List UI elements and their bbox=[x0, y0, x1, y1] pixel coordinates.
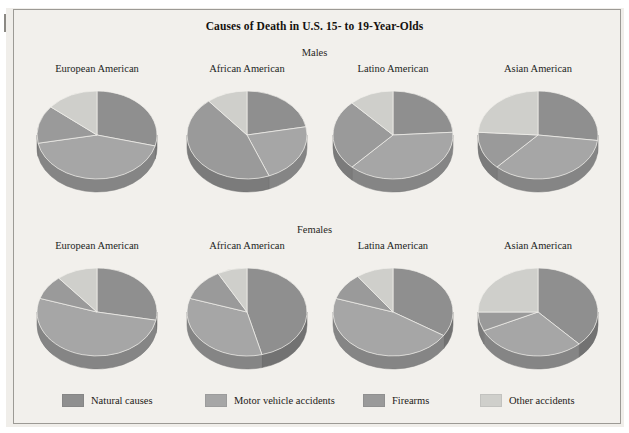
pie-panel-label: European American bbox=[22, 63, 172, 74]
pie-chart bbox=[470, 256, 606, 378]
page-edge-top bbox=[0, 0, 629, 8]
pie-panel: Asian American bbox=[463, 240, 613, 390]
legend-swatch-icon bbox=[480, 394, 502, 407]
section-label-females: Females bbox=[0, 224, 629, 235]
pie-row-females: European American African American Latin… bbox=[0, 240, 629, 390]
pie-chart bbox=[325, 256, 461, 378]
pie-chart bbox=[179, 256, 315, 378]
pie-panel: African American bbox=[172, 240, 322, 390]
pie-chart bbox=[470, 79, 606, 201]
pie-panel-label: European American bbox=[22, 240, 172, 251]
pie-panel: Asian American bbox=[463, 63, 613, 213]
legend: Natural causes Motor vehicle accidents F… bbox=[0, 394, 629, 418]
pie-panel-label: Asian American bbox=[463, 63, 613, 74]
legend-item-firearms: Firearms bbox=[363, 394, 429, 407]
pie-panel: Latina American bbox=[318, 240, 468, 390]
legend-label: Natural causes bbox=[91, 395, 153, 406]
pie-panel: European American bbox=[22, 63, 172, 213]
legend-swatch-icon bbox=[205, 394, 227, 407]
legend-swatch-icon bbox=[62, 394, 84, 407]
legend-item-other-accidents: Other accidents bbox=[480, 394, 575, 407]
pie-panel-label: African American bbox=[172, 240, 322, 251]
legend-swatch-icon bbox=[363, 394, 385, 407]
pie-panel-label: Latina American bbox=[318, 240, 468, 251]
pie-panel: African American bbox=[172, 63, 322, 213]
pie-row-males: European American African American Latin… bbox=[0, 63, 629, 213]
pie-chart bbox=[325, 79, 461, 201]
pie-chart bbox=[29, 79, 165, 201]
pie-chart bbox=[29, 256, 165, 378]
legend-item-natural-causes: Natural causes bbox=[62, 394, 153, 407]
legend-item-motor-vehicle-accidents: Motor vehicle accidents bbox=[205, 394, 335, 407]
pie-panel: European American bbox=[22, 240, 172, 390]
legend-label: Other accidents bbox=[509, 395, 575, 406]
figure-page: Causes of Death in U.S. 15- to 19-Year-O… bbox=[0, 0, 629, 433]
pie-panel-label: Latino American bbox=[318, 63, 468, 74]
legend-label: Firearms bbox=[392, 395, 429, 406]
pie-panel-label: Asian American bbox=[463, 240, 613, 251]
figure-title: Causes of Death in U.S. 15- to 19-Year-O… bbox=[0, 20, 629, 32]
legend-label: Motor vehicle accidents bbox=[234, 395, 335, 406]
pie-chart bbox=[179, 79, 315, 201]
pie-panel-label: African American bbox=[172, 63, 322, 74]
pie-panel: Latino American bbox=[318, 63, 468, 213]
section-label-males: Males bbox=[0, 47, 629, 58]
page-edge-bottom bbox=[0, 427, 629, 433]
